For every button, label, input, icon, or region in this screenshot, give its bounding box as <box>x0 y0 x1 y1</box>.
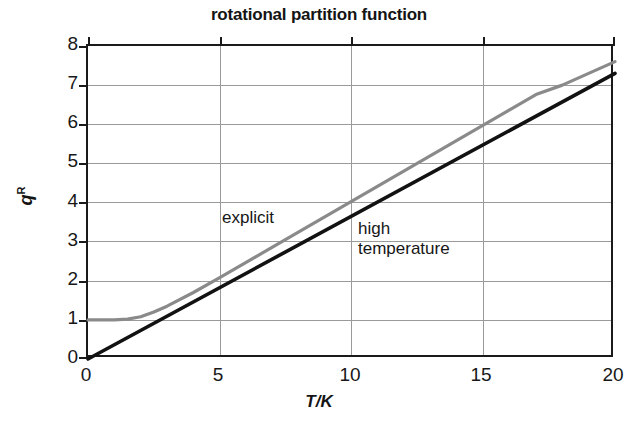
y-axis-title-superscript: R <box>15 187 27 195</box>
y-axis-title-base: q <box>16 194 36 205</box>
x-tick-20 <box>613 37 615 46</box>
y-tick-0 <box>79 357 88 359</box>
y-tick-7 <box>79 85 88 87</box>
x-axis-title: T/K <box>0 392 638 412</box>
y-tick-label-2: 2 <box>38 268 78 290</box>
gridline-y-5 <box>88 163 611 164</box>
y-tick-label-5: 5 <box>38 150 78 172</box>
y-axis-title: qR <box>15 176 37 216</box>
x-tick-10 <box>351 37 353 46</box>
gridline-x-15 <box>483 46 484 355</box>
chart-figure: rotational partition function 8 7 6 5 4 … <box>0 0 638 431</box>
x-tick-label-10: 10 <box>320 364 380 386</box>
y-tick-2 <box>79 281 88 283</box>
x-tick-label-15: 15 <box>451 364 511 386</box>
y-tick-1 <box>79 320 88 322</box>
x-tick-label-20: 20 <box>583 364 638 386</box>
y-tick-6 <box>79 124 88 126</box>
gridline-x-5 <box>220 46 221 355</box>
x-tick-label-0: 0 <box>56 364 116 386</box>
gridline-y-1 <box>88 320 611 321</box>
y-tick-label-7: 7 <box>38 72 78 94</box>
y-tick-4 <box>79 202 88 204</box>
y-tick-5 <box>79 163 88 165</box>
gridline-y-6 <box>88 124 611 125</box>
gridline-x-10 <box>351 46 352 355</box>
gridline-y-4 <box>88 202 611 203</box>
gridline-y-3 <box>88 241 611 242</box>
y-tick-3 <box>79 241 88 243</box>
y-tick-label-3: 3 <box>38 229 78 251</box>
y-tick-label-4: 4 <box>38 190 78 212</box>
y-tick-8 <box>79 46 88 48</box>
annotation-high-temperature: high temperature <box>358 219 450 259</box>
x-tick-0 <box>88 37 90 46</box>
y-tick-label-8: 8 <box>38 33 78 55</box>
chart-title: rotational partition function <box>0 5 638 25</box>
x-tick-label-5: 5 <box>188 364 248 386</box>
x-tick-5 <box>220 37 222 46</box>
annotation-explicit: explicit <box>222 208 274 228</box>
y-tick-label-6: 6 <box>38 111 78 133</box>
x-tick-15 <box>483 37 485 46</box>
y-tick-label-1: 1 <box>38 307 78 329</box>
gridline-y-2 <box>88 281 611 282</box>
plot-area <box>86 44 613 357</box>
gridline-y-7 <box>88 85 611 86</box>
